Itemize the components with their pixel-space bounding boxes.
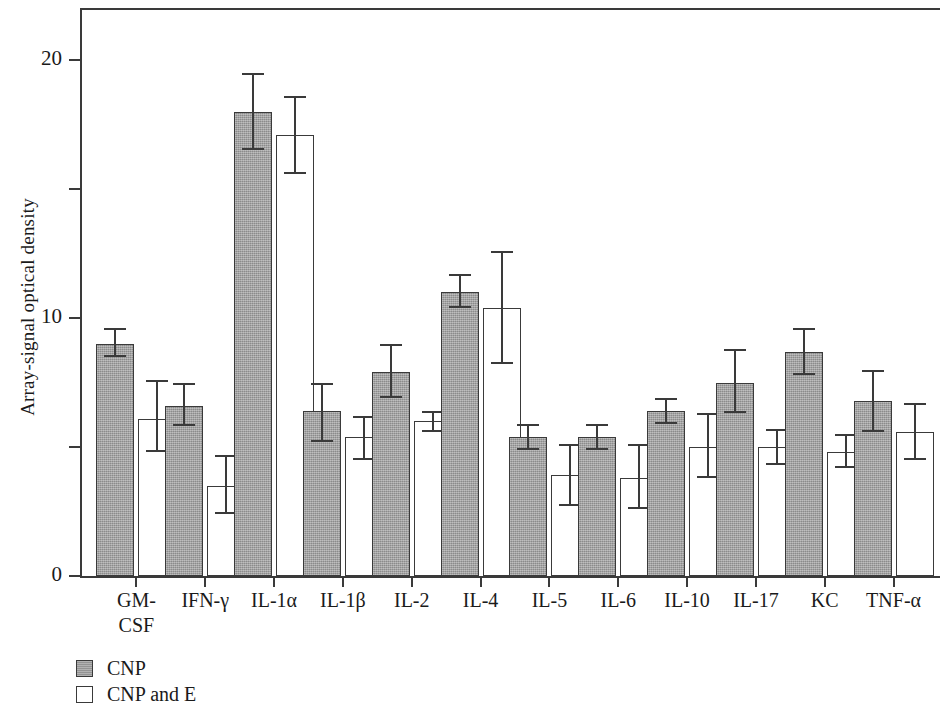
bar [578,437,616,576]
y-axis-tick [69,446,80,448]
error-bar-cap-top [173,383,195,385]
error-bar-stem [501,251,503,365]
bar [165,406,203,576]
error-bar-stem [363,416,365,460]
error-bar [716,349,754,414]
error-bar-stem [294,96,296,173]
chart-legend: CNPCNP and E [76,655,196,707]
legend-item-label: CNP [107,657,146,680]
error-bar-cap-top [586,424,608,426]
x-axis-label: IL-17 [722,588,791,613]
x-axis-label: TNF-α [859,588,928,613]
legend-swatch-filled [76,660,93,677]
error-bar-stem [183,383,185,427]
x-axis-label: IFN-γ [171,588,240,613]
error-bar-cap-top [793,328,815,330]
x-axis-label: IL-6 [584,588,653,613]
error-bar-cap-bottom [586,448,608,450]
plot-top-border [80,8,940,10]
y-axis-title: Array-signal optical density [17,157,39,457]
bar [647,411,685,576]
bar [785,352,823,576]
x-axis-tick [548,578,550,587]
error-bar [303,383,341,442]
x-axis-tick [617,578,619,587]
error-bar-cap-bottom [242,148,264,150]
error-bar-cap-bottom [491,362,513,364]
error-bar-stem [638,444,640,509]
y-axis-tick: 20 [69,59,80,61]
error-bar-stem [665,398,667,424]
error-bar-stem [321,383,323,442]
y-axis-tick-label: 10 [41,304,62,329]
x-axis-tick [135,578,137,587]
legend-item-label: CNP and E [107,683,196,706]
x-axis-label: IL-1β [309,588,378,613]
error-bar-cap-top [242,73,264,75]
x-axis-tick [273,578,275,587]
error-bar-cap-bottom [862,430,884,432]
error-bar-stem [707,413,709,478]
legend-item: CNP [76,655,196,681]
bar [234,112,272,576]
x-axis-tick [342,578,344,587]
x-axis-tick [755,578,757,587]
plot-area: 01020 [80,8,940,578]
error-bar-cap-bottom [793,373,815,375]
error-bar-cap-bottom [311,440,333,442]
error-bar-stem [845,434,847,468]
error-bar-cap-bottom [904,458,926,460]
y-axis-tick: 0 [69,575,80,577]
x-axis-tick [824,578,826,587]
error-bar-stem [390,344,392,398]
y-axis-tick: 10 [69,317,80,319]
bar [96,344,134,576]
error-bar-cap-top [862,370,884,372]
error-bar-stem [252,73,254,150]
y-axis-tick-label: 0 [52,562,63,587]
error-bar-cap-bottom [380,396,402,398]
error-bar [441,274,479,308]
error-bar-stem [569,444,571,506]
error-bar-cap-bottom [655,422,677,424]
error-bar [165,383,203,427]
error-bar-stem [432,411,434,432]
x-axis-tick [411,578,413,587]
error-bar-stem [459,274,461,308]
error-bar [483,251,521,365]
x-axis-tick [893,578,895,587]
error-bar [647,398,685,424]
y-axis-tick-label: 20 [41,46,62,71]
bar [441,292,479,576]
y-axis-tick [69,188,80,190]
error-bar-cap-top [491,251,513,253]
error-bar-cap-top [655,398,677,400]
legend-swatch-open [76,686,93,703]
error-bar-cap-bottom [104,355,126,357]
chart-figure: Array-signal optical density 01020 GM- C… [0,0,944,714]
error-bar-cap-top [904,403,926,405]
x-axis-label: IL-2 [377,588,446,613]
error-bar [96,328,134,356]
error-bar-cap-bottom [517,448,539,450]
error-bar-stem [527,424,529,450]
x-axis-label: KC [790,588,859,613]
error-bar-stem [156,380,158,452]
error-bar-cap-bottom [173,424,195,426]
legend-item: CNP and E [76,681,196,707]
error-bar-cap-bottom [724,411,746,413]
error-bar-stem [872,370,874,432]
x-axis-line [80,576,940,578]
error-bar-stem [914,403,916,460]
x-axis-label: IL-4 [446,588,515,613]
error-bar-stem [803,328,805,374]
error-bar-cap-bottom [284,172,306,174]
error-bar-cap-bottom [449,306,471,308]
bar [509,437,547,576]
error-bar [372,344,410,398]
error-bar-cap-top [284,96,306,98]
error-bar-stem [776,429,778,465]
error-bar-cap-top [380,344,402,346]
error-bar [276,96,314,173]
error-bar [896,403,934,460]
